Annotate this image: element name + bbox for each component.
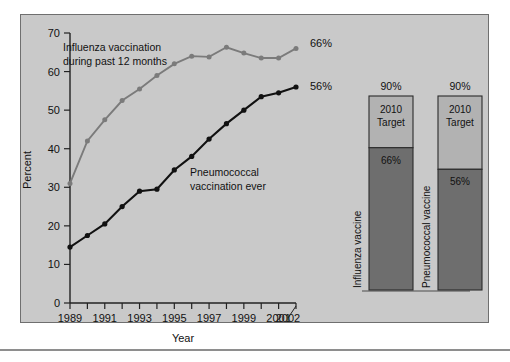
data-point: [68, 181, 73, 186]
y-tick-label: 50: [48, 104, 60, 116]
x-tick-label: 1989: [58, 312, 82, 324]
bar-panel: 90%2010Target66%Influenza vaccine90%2010…: [352, 80, 482, 291]
x-tick-label: 1991: [93, 312, 117, 324]
chart-canvas: 010203040506070 198919911993199519971999…: [0, 0, 510, 362]
data-point: [67, 244, 72, 249]
pneumococcal-annotation-line2: vaccination ever: [190, 180, 266, 192]
y-tick-label: 70: [48, 27, 60, 39]
x-axis-title: Year: [172, 332, 195, 344]
influenza-annotation-line1: Influenza vaccination: [63, 41, 161, 53]
data-point: [276, 90, 281, 95]
bar-category-label: Influenza vaccine: [352, 210, 363, 288]
data-point: [224, 45, 229, 50]
bar-0: 90%2010Target66%Influenza vaccine: [352, 80, 413, 290]
data-point: [172, 167, 177, 172]
y-axis-title: Percent: [21, 151, 33, 189]
x-tick-label: 1993: [127, 312, 151, 324]
data-point: [206, 136, 211, 141]
bar-1: 90%2010Target56%Pneumococcal vaccine: [421, 80, 482, 290]
bar-target-label-line1: 2010: [449, 104, 472, 115]
y-tick-label: 60: [48, 66, 60, 78]
data-point: [207, 54, 212, 59]
data-point: [189, 54, 194, 59]
pneumococcal-end-label: 56%: [310, 80, 332, 92]
bar-achieved-segment: [369, 148, 413, 290]
data-point: [189, 154, 194, 159]
data-point: [241, 51, 246, 56]
data-point: [154, 187, 159, 192]
bar-achieved-label: 56%: [450, 176, 470, 187]
data-point: [293, 84, 298, 89]
pneumococcal-annotation-line1: Pneumococcal: [190, 166, 259, 178]
x-axis-ticks: 19891991199319951997199920012002: [58, 303, 300, 324]
data-point: [276, 56, 281, 61]
x-tick-label: 1995: [162, 312, 186, 324]
influenza-end-label: 66%: [310, 37, 332, 49]
data-point: [259, 56, 264, 61]
data-point: [241, 108, 246, 113]
bar-category-label: Pneumococcal vaccine: [421, 185, 432, 288]
data-point: [294, 46, 299, 51]
bar-top-label: 90%: [449, 80, 470, 92]
figure-root: 010203040506070 198919911993199519971999…: [0, 0, 510, 362]
bar-target-label-line2: Target: [377, 117, 405, 128]
y-tick-label: 40: [48, 143, 60, 155]
data-point: [259, 94, 264, 99]
data-point: [102, 221, 107, 226]
bar-target-label-line1: 2010: [380, 104, 403, 115]
data-point: [137, 86, 142, 91]
data-point: [224, 121, 229, 126]
y-tick-label: 10: [48, 258, 60, 270]
y-tick-label: 20: [48, 220, 60, 232]
data-point: [120, 204, 125, 209]
data-point: [120, 98, 125, 103]
influenza-annotation-line2: during past 12 months: [63, 55, 167, 67]
bar-target-label-line2: Target: [446, 117, 474, 128]
x-tick-label: 1997: [197, 312, 221, 324]
y-tick-label: 30: [48, 181, 60, 193]
data-point: [137, 189, 142, 194]
data-point: [85, 233, 90, 238]
y-tick-label: 0: [54, 297, 60, 309]
series-lines: [70, 47, 296, 247]
bar-achieved-label: 66%: [381, 155, 401, 166]
data-point: [85, 139, 90, 144]
data-point: [172, 61, 177, 66]
series-markers: [67, 45, 298, 250]
bar-group: 90%2010Target66%Influenza vaccine90%2010…: [352, 80, 482, 290]
data-point: [102, 117, 107, 122]
bar-top-label: 90%: [380, 80, 401, 92]
data-point: [154, 73, 159, 78]
x-tick-label: 1999: [232, 312, 256, 324]
y-axis-ticks: 010203040506070: [48, 27, 70, 309]
line-chart: 010203040506070 198919911993199519971999…: [21, 27, 332, 344]
bar-achieved-segment: [438, 169, 482, 290]
figure-bottom-rule: [0, 349, 510, 351]
